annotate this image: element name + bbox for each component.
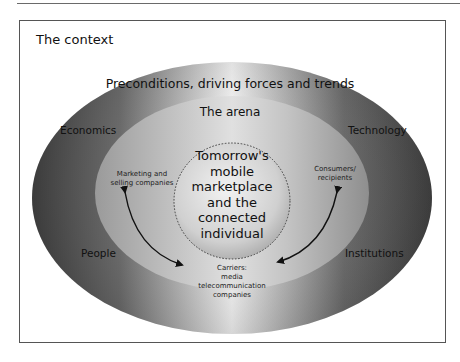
actor-consumers-recipients: Consumers/ recipients bbox=[305, 165, 365, 183]
core-line: mobile bbox=[174, 164, 290, 180]
context-title: The context bbox=[36, 33, 113, 47]
actor-marketing-selling-companies: Marketing and selling companies bbox=[102, 170, 182, 188]
actor-carriers: Carriers: media telecommunication compan… bbox=[182, 264, 282, 300]
core-line: Tomorrow's bbox=[174, 148, 290, 164]
core-line: individual bbox=[174, 226, 290, 242]
core-label: Tomorrow's mobile marketplace and the co… bbox=[174, 148, 290, 242]
actor-line: selling companies bbox=[102, 179, 182, 188]
core-line: marketplace bbox=[174, 179, 290, 195]
actor-line: Consumers/ bbox=[305, 165, 365, 174]
actor-line: companies bbox=[182, 291, 282, 300]
actor-line: recipients bbox=[305, 174, 365, 183]
force-institutions: Institutions bbox=[345, 248, 404, 259]
actor-line: Marketing and bbox=[102, 170, 182, 179]
force-economics: Economics bbox=[60, 125, 116, 136]
actor-line: media bbox=[182, 273, 282, 282]
actor-line: telecommunication bbox=[182, 282, 282, 291]
core-line: connected bbox=[174, 210, 290, 226]
arena-title: The arena bbox=[0, 106, 460, 119]
force-technology: Technology bbox=[348, 125, 407, 136]
core-line: and the bbox=[174, 195, 290, 211]
outer-ring-title: Preconditions, driving forces and trends bbox=[0, 77, 460, 90]
actor-line: Carriers: bbox=[182, 264, 282, 273]
force-people: People bbox=[81, 248, 116, 259]
